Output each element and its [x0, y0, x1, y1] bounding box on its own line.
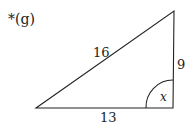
diagram: *(g) 16 9 13 x	[0, 0, 187, 126]
problem-label: *(g)	[8, 13, 35, 26]
hypotenuse-label: 16	[93, 46, 110, 59]
angle-label: x	[160, 91, 167, 104]
base-label: 13	[100, 111, 117, 124]
vertical-side-label: 9	[177, 58, 185, 71]
